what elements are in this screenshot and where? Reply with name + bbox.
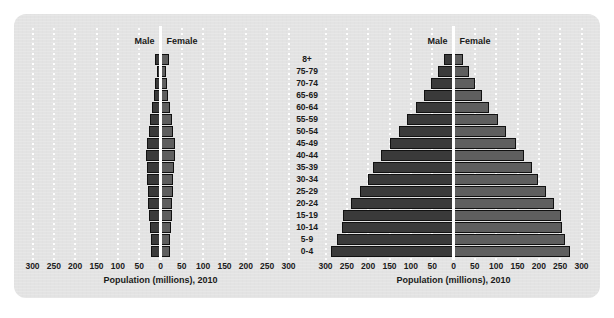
x-tick-label: 50: [134, 261, 143, 271]
age-group-label: 65-69: [273, 90, 341, 101]
x-tick-label: 150: [89, 261, 103, 271]
x-axis-ticks-right: 30025020015010050050100150200250300: [315, 261, 592, 273]
bar-female: [454, 114, 498, 125]
bar-female: [454, 150, 525, 161]
axis-centerline-left: [159, 26, 162, 260]
age-group-label: 60-64: [273, 102, 341, 113]
age-group-label: 25-29: [273, 186, 341, 197]
x-tick-label: 100: [111, 261, 125, 271]
x-tick-label: 250: [553, 261, 567, 271]
age-group-label: 30-34: [273, 174, 341, 185]
bar-male: [331, 246, 454, 257]
bar-female: [161, 114, 172, 125]
x-tick-label: 300: [281, 261, 295, 271]
bar-female: [454, 162, 533, 173]
x-tick-label: 100: [489, 261, 503, 271]
bar-female: [454, 210, 562, 221]
bar-female: [454, 198, 555, 209]
bar-female: [161, 174, 174, 185]
pyramid-panel-left: Male Female 3002502001501005005010015020…: [14, 14, 307, 298]
bar-female: [161, 138, 175, 149]
age-group-label: 40-44: [273, 150, 341, 161]
x-tick-label: 100: [404, 261, 418, 271]
bar-male: [351, 198, 453, 209]
axis-centerline-right: [452, 26, 455, 260]
bar-female: [454, 246, 570, 257]
x-tick-label: 300: [318, 261, 332, 271]
bar-female: [454, 78, 475, 89]
age-group-label: 45-49: [273, 138, 341, 149]
bar-male: [399, 126, 454, 137]
x-tick-label: 50: [427, 261, 436, 271]
age-group-label: 5-9: [273, 234, 341, 245]
x-tick-label: 50: [470, 261, 479, 271]
legend-female-right: Female: [460, 36, 593, 46]
bar-female: [161, 150, 175, 161]
legend-male-right: Male: [315, 36, 448, 46]
age-group-label: 75-79: [273, 66, 341, 77]
x-tick-label: 300: [574, 261, 588, 271]
bar-female: [454, 174, 538, 185]
age-group-label: 0-4: [273, 246, 341, 257]
age-group-label: 8+: [273, 54, 341, 65]
legend-male-left: Male: [22, 36, 155, 46]
x-axis-title-right: Population (millions), 2010: [307, 275, 600, 285]
age-group-label: 10-14: [273, 222, 341, 233]
pyramid-panel-right: Male Female 3002502001501005005010015020…: [307, 14, 600, 298]
x-tick-label: 150: [510, 261, 524, 271]
bar-female: [454, 66, 469, 77]
x-tick-label: 250: [47, 261, 61, 271]
chart-card: Male Female 3002502001501005005010015020…: [14, 14, 600, 298]
plot-area-left: [22, 54, 299, 258]
x-tick-label: 0: [158, 261, 163, 271]
bar-male: [337, 234, 453, 245]
bar-female: [454, 138, 516, 149]
age-group-label: 55-59: [273, 114, 341, 125]
bar-male: [390, 138, 453, 149]
age-group-label: 50-54: [273, 126, 341, 137]
x-tick-label: 200: [361, 261, 375, 271]
bar-male: [360, 186, 454, 197]
bar-female: [161, 222, 171, 233]
x-axis-title-left: Population (millions), 2010: [14, 275, 307, 285]
bar-female: [161, 162, 175, 173]
plot-area-right: [315, 54, 592, 258]
age-group-labels: 8+75-7970-7465-6960-6455-5950-5445-4940-…: [273, 54, 341, 258]
bar-male: [373, 162, 453, 173]
age-group-label: 70-74: [273, 78, 341, 89]
x-tick-label: 50: [177, 261, 186, 271]
bar-female: [454, 126, 507, 137]
x-tick-label: 0: [451, 261, 456, 271]
age-group-label: 35-39: [273, 162, 341, 173]
x-tick-label: 250: [340, 261, 354, 271]
x-tick-label: 150: [217, 261, 231, 271]
bar-male: [342, 222, 454, 233]
x-tick-label: 200: [68, 261, 82, 271]
bar-female: [161, 186, 173, 197]
bar-male: [431, 78, 453, 89]
x-axis-ticks-left: 30025020015010050050100150200250300: [22, 261, 299, 273]
bar-male: [407, 114, 453, 125]
legend-female-left: Female: [167, 36, 300, 46]
bar-female: [454, 90, 482, 101]
x-tick-label: 200: [239, 261, 253, 271]
bar-female: [454, 222, 562, 233]
age-group-label: 20-24: [273, 198, 341, 209]
bar-female: [454, 102, 490, 113]
x-tick-label: 200: [532, 261, 546, 271]
x-tick-label: 300: [25, 261, 39, 271]
bar-female: [161, 210, 172, 221]
bar-male: [416, 102, 454, 113]
x-tick-label: 150: [382, 261, 396, 271]
bar-male: [424, 90, 454, 101]
bar-male: [368, 174, 453, 185]
x-tick-label: 250: [260, 261, 274, 271]
bar-female: [161, 198, 173, 209]
bar-female: [454, 186, 546, 197]
x-tick-label: 100: [196, 261, 210, 271]
bar-female: [161, 126, 173, 137]
bar-male: [381, 150, 454, 161]
bar-female: [454, 234, 566, 245]
age-group-label: 15-19: [273, 210, 341, 221]
bar-male: [343, 210, 454, 221]
